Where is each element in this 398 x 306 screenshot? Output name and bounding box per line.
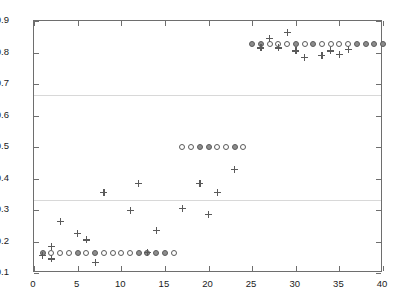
x-axis-tick [296, 266, 297, 271]
x-axis-tick [121, 266, 122, 271]
y-axis-tick [34, 147, 39, 148]
x-axis-tick [339, 21, 340, 26]
data-point-plus [196, 180, 203, 187]
data-point-open-circle [328, 41, 334, 47]
y-axis-tick-label: 0.7 [0, 78, 9, 88]
x-axis-tick [252, 21, 253, 26]
data-point-filled-circle [310, 41, 316, 47]
data-point-open-circle [179, 144, 185, 150]
data-point-open-circle [188, 144, 194, 150]
y-axis-tick [376, 273, 381, 274]
y-axis-tick [34, 273, 39, 274]
data-point-plus [83, 236, 90, 243]
x-axis-tick [34, 266, 35, 271]
data-point-filled-circle [153, 250, 159, 256]
y-axis-tick-label: 0.6 [0, 110, 9, 120]
data-point-plus [284, 29, 291, 36]
data-point-open-circle [240, 144, 246, 150]
plot-area [33, 20, 382, 272]
y-axis-tick-label: 0.8 [0, 47, 9, 57]
data-point-open-circle [171, 250, 177, 256]
data-point-plus [318, 52, 325, 59]
y-axis-tick-label: 0.1 [0, 267, 9, 277]
data-point-filled-circle [354, 41, 360, 47]
x-axis-tick [209, 21, 210, 26]
data-point-plus [257, 44, 264, 51]
x-axis-tick-label: 10 [105, 279, 135, 289]
data-point-plus [292, 47, 299, 54]
y-axis-tick-label: 0.4 [0, 173, 9, 183]
y-axis-tick-label: 0.3 [0, 204, 9, 214]
data-point-filled-circle [92, 250, 98, 256]
data-point-open-circle [110, 250, 116, 256]
y-axis-tick [376, 84, 381, 85]
data-point-filled-circle [232, 144, 238, 150]
data-point-filled-circle [293, 41, 299, 47]
data-point-filled-circle [380, 41, 386, 47]
x-axis-tick-label: 40 [367, 279, 397, 289]
data-point-open-circle [302, 41, 308, 47]
y-axis-tick [34, 53, 39, 54]
data-point-plus [127, 207, 134, 214]
data-point-plus [144, 249, 151, 256]
x-axis-tick-label: 5 [62, 279, 92, 289]
data-point-open-circle [336, 41, 342, 47]
data-point-filled-circle [162, 250, 168, 256]
data-point-plus [179, 205, 186, 212]
data-point-plus [266, 35, 273, 42]
y-axis-tick [34, 242, 39, 243]
data-point-plus [327, 47, 334, 54]
data-point-plus [275, 44, 282, 51]
x-axis-tick [78, 21, 79, 26]
data-point-open-circle [101, 250, 107, 256]
data-point-plus [48, 255, 55, 262]
x-axis-tick [383, 21, 384, 26]
data-point-filled-circle [197, 144, 203, 150]
y-axis-tick [376, 116, 381, 117]
x-axis-tick [165, 21, 166, 26]
data-point-plus [214, 189, 221, 196]
x-axis-tick [296, 21, 297, 26]
data-point-plus [231, 166, 238, 173]
y-axis-tick [34, 179, 39, 180]
data-point-plus [153, 227, 160, 234]
data-point-plus [336, 51, 343, 58]
y-axis-tick-label: 0.9 [0, 15, 9, 25]
data-point-open-circle [57, 250, 63, 256]
data-point-filled-circle [363, 41, 369, 47]
scatter-plot-figure: 0.10.20.30.40.50.60.70.80.90510152025303… [0, 0, 398, 306]
data-point-open-circle [66, 250, 72, 256]
y-axis-tick [376, 53, 381, 54]
x-axis-tick-label: 35 [323, 279, 353, 289]
reference-line-1 [34, 200, 381, 201]
y-axis-tick [34, 84, 39, 85]
x-axis-tick-label: 25 [236, 279, 266, 289]
data-point-plus [301, 54, 308, 61]
data-point-open-circle [223, 144, 229, 150]
data-point-filled-circle [75, 250, 81, 256]
x-axis-tick [165, 266, 166, 271]
x-axis-tick [78, 266, 79, 271]
x-axis-tick [383, 266, 384, 271]
data-point-plus [92, 259, 99, 266]
data-point-plus [57, 218, 64, 225]
y-axis-tick-label: 0.5 [0, 141, 9, 151]
x-axis-tick-label: 20 [193, 279, 223, 289]
data-point-plus [135, 180, 142, 187]
data-point-open-circle [127, 250, 133, 256]
data-point-filled-circle [371, 41, 377, 47]
x-axis-tick [339, 266, 340, 271]
data-point-filled-circle [206, 144, 212, 150]
data-point-plus [100, 189, 107, 196]
x-axis-tick [121, 21, 122, 26]
reference-line-0 [34, 95, 381, 96]
y-axis-tick [376, 242, 381, 243]
y-axis-tick [376, 210, 381, 211]
data-point-open-circle [284, 41, 290, 47]
data-point-open-circle [319, 41, 325, 47]
y-axis-tick-label: 0.2 [0, 236, 9, 246]
data-point-open-circle [83, 250, 89, 256]
data-point-plus [74, 230, 81, 237]
data-point-filled-circle [249, 41, 255, 47]
y-axis-tick [376, 147, 381, 148]
